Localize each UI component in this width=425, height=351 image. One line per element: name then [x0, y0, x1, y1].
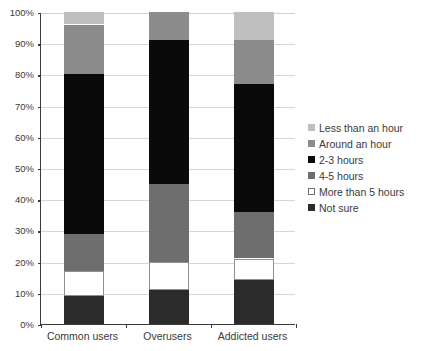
bar-segment[interactable] [64, 74, 104, 233]
y-tick-mark [38, 169, 42, 170]
legend-item[interactable]: More than 5 hours [308, 184, 423, 200]
y-tick-mark [38, 107, 42, 108]
y-tick-label: 40% [0, 195, 34, 205]
bar-stack[interactable] [64, 13, 104, 324]
y-tick-label: 80% [0, 71, 34, 81]
x-tick-mark [126, 324, 127, 328]
bar-segment[interactable] [149, 184, 189, 262]
legend-item[interactable]: Less than an hour [308, 120, 423, 136]
legend-label: Not sure [319, 202, 359, 214]
y-tick-label: 0% [0, 320, 34, 330]
chart-legend: Less than an hourAround an hour2-3 hours… [308, 120, 423, 216]
bar-segment[interactable] [149, 262, 189, 290]
legend-item[interactable]: 4-5 hours [308, 168, 423, 184]
bar-stack[interactable] [149, 13, 189, 324]
y-tick-label: 100% [0, 8, 34, 18]
bar-segment[interactable] [234, 12, 274, 40]
y-tick-mark [38, 75, 42, 76]
legend-item[interactable]: Not sure [308, 200, 423, 216]
bar-segment[interactable] [64, 25, 104, 75]
x-tick-mark [41, 324, 42, 328]
y-tick-label: 30% [0, 227, 34, 237]
y-tick-label: 60% [0, 133, 34, 143]
bar-segment[interactable] [149, 12, 189, 40]
legend-swatch-icon [308, 156, 315, 163]
y-tick-mark [38, 200, 42, 201]
x-axis-label-common-users: Common users [47, 330, 118, 342]
y-tick-mark [38, 138, 42, 139]
bar-segment[interactable] [149, 40, 189, 184]
x-tick-mark [211, 324, 212, 328]
stacked-bar-chart: 0%10%20%30%40%50%60%70%80%90%100% Common… [0, 0, 425, 351]
bar-segment[interactable] [234, 259, 274, 281]
bar-segment[interactable] [64, 234, 104, 271]
bar-segment[interactable] [64, 271, 104, 296]
legend-label: Less than an hour [319, 122, 403, 134]
y-tick-label: 10% [0, 289, 34, 299]
bar-segment[interactable] [234, 212, 274, 259]
y-tick-mark [38, 13, 42, 14]
x-tick-mark [296, 324, 297, 328]
legend-label: 4-5 hours [319, 170, 363, 182]
x-axis-label-overusers: Overusers [143, 330, 191, 342]
bar-stack[interactable] [234, 13, 274, 324]
y-tick-mark [38, 263, 42, 264]
legend-label: 2-3 hours [319, 154, 363, 166]
legend-item[interactable]: Around an hour [308, 136, 423, 152]
bar-segment[interactable] [149, 290, 189, 324]
bar-segment[interactable] [64, 296, 104, 324]
bar-segment[interactable] [234, 280, 274, 324]
legend-label: More than 5 hours [319, 186, 404, 198]
bar-segment[interactable] [234, 84, 274, 212]
legend-swatch-icon [308, 188, 315, 195]
y-tick-label: 90% [0, 39, 34, 49]
y-tick-label: 50% [0, 164, 34, 174]
x-axis-label-addicted-users: Addicted users [218, 330, 287, 342]
legend-item[interactable]: 2-3 hours [308, 152, 423, 168]
bar-segment[interactable] [64, 12, 104, 24]
y-tick-label: 20% [0, 258, 34, 268]
legend-swatch-icon [308, 172, 315, 179]
legend-swatch-icon [308, 124, 315, 131]
y-tick-mark [38, 231, 42, 232]
legend-swatch-icon [308, 204, 315, 211]
legend-label: Around an hour [319, 138, 391, 150]
legend-swatch-icon [308, 140, 315, 147]
y-tick-mark [38, 294, 42, 295]
y-tick-label: 70% [0, 102, 34, 112]
bar-segment[interactable] [234, 40, 274, 84]
y-tick-mark [38, 44, 42, 45]
plot-area [40, 13, 295, 325]
